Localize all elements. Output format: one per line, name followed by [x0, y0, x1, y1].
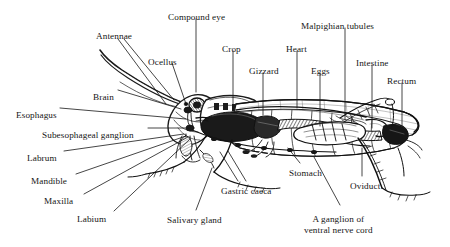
- label-intestine: Intestine: [356, 58, 389, 69]
- label-esophagus: Esophagus: [16, 110, 57, 121]
- label-brain: Brain: [93, 92, 114, 103]
- label-line: A ganglion of: [304, 214, 373, 225]
- label-maxilla: Maxilla: [44, 196, 73, 207]
- label-mandible: Mandible: [31, 176, 67, 187]
- anatomy-figure: AntennaeCompound eyeOcellusCropGizzardHe…: [0, 0, 450, 247]
- label-labrum: Labrum: [27, 153, 57, 164]
- label-crop: Crop: [222, 44, 241, 55]
- label-malpighian: Malpighian tubules: [301, 21, 374, 32]
- label-compound-eye: Compound eye: [168, 12, 225, 23]
- label-oviduct: Oviduct: [350, 181, 380, 192]
- label-labium: Labium: [77, 214, 106, 225]
- label-antennae: Antennae: [96, 31, 132, 42]
- label-subesophageal: Subesophageal ganglion: [42, 130, 134, 141]
- label-gastric-caeca: Gastric caeca: [221, 186, 272, 197]
- label-stomach: Stomach: [289, 168, 322, 179]
- label-ventral-nerve-cord-ganglion: A ganglion ofventral nerve cord: [304, 214, 373, 235]
- label-line: ventral nerve cord: [304, 225, 373, 236]
- grasshopper-illustration: [0, 0, 450, 247]
- label-ocellus: Ocellus: [148, 57, 177, 68]
- label-salivary-gland: Salivary gland: [167, 215, 222, 226]
- label-gizzard: Gizzard: [249, 66, 279, 77]
- label-eggs: Eggs: [311, 66, 330, 77]
- label-rectum: Rectum: [387, 76, 416, 87]
- label-heart: Heart: [286, 44, 307, 55]
